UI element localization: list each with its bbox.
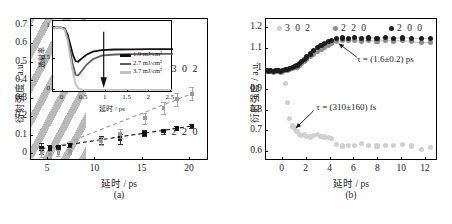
panel-b-xtick: 8 — [365, 164, 389, 174]
panel-a-xtick-mark — [94, 157, 95, 160]
inset-xtick-mark — [148, 90, 149, 93]
inset-legend-swatch — [120, 63, 131, 66]
inset-curves — [53, 21, 173, 93]
data-point-302 — [48, 153, 52, 157]
error-bar-cap — [39, 157, 44, 158]
error-bar-cap — [99, 145, 104, 146]
inset-xtick-mark — [170, 90, 171, 93]
data-point-302 — [162, 106, 166, 110]
error-bar-cap — [118, 129, 123, 130]
inset-xaxis-title: 延时 / ps — [82, 103, 142, 113]
inset-xtick-mark — [127, 90, 128, 93]
panel-b-label: (b) — [331, 190, 371, 200]
error-bar-cap — [161, 102, 166, 103]
inset-xtick: 2.5 — [160, 94, 180, 101]
data-point-200 — [359, 36, 364, 41]
inset-ytick-mark — [52, 58, 55, 59]
data-point-220 — [68, 143, 73, 148]
error-bar-cap — [118, 144, 123, 145]
data-point-302 — [346, 143, 351, 148]
inset-xtick-mark — [83, 90, 84, 93]
panel-b-legend-marker — [389, 26, 394, 31]
panel-b-ytick-mark — [265, 151, 268, 152]
panel-a-series-label: 3 0 2 — [171, 63, 199, 74]
data-point-302 — [190, 92, 194, 96]
data-point-302 — [118, 132, 122, 136]
panel-b-legend-label: 3 0 2 — [285, 23, 312, 33]
data-point-200 — [409, 36, 414, 41]
data-point-302 — [57, 151, 61, 155]
panel-a-ytick: 0.1 — [2, 130, 27, 140]
error-bar-cap — [142, 113, 147, 114]
panel-a-ytick-mark — [30, 98, 33, 99]
panel-a-xaxis-title: 延时 / ps — [79, 176, 159, 190]
error-bar-cap — [67, 154, 72, 155]
inset-legend-label: 2.7 mJ/cm² — [133, 59, 162, 66]
data-point-200 — [346, 36, 351, 41]
data-point-302 — [68, 150, 72, 154]
panel-a-ytick-mark — [30, 116, 33, 117]
panel-a-ytick-mark — [30, 80, 33, 81]
data-point-302 — [366, 143, 371, 148]
panel-b-legend-marker — [333, 26, 338, 31]
panel-a-ytick-mark — [30, 43, 33, 44]
panel-a-ytick: 0.7 — [2, 20, 27, 30]
inset-xtick: 0 — [52, 94, 72, 101]
inset-xtick-mark — [62, 90, 63, 93]
error-bar-cap — [142, 136, 147, 137]
panel-b-yaxis-title: 衍射强度 / a.u. — [247, 62, 261, 123]
panel-b-ytick-mark — [265, 48, 268, 49]
panel-b-xtick-mark — [282, 157, 283, 160]
data-point-302 — [40, 151, 44, 155]
figure-container: 00.10.20.30.40.50.60.75101520延时 / ps衍射强度… — [0, 0, 452, 224]
data-point-302 — [374, 143, 379, 148]
data-point-220 — [161, 129, 166, 134]
panel-b-xtick: 6 — [341, 164, 365, 174]
panel-a-xtick: 10 — [82, 164, 106, 174]
panel-a-xtick: 15 — [130, 164, 154, 174]
panel-b-xtick-mark — [306, 157, 307, 160]
inset-legend-label: 1.9 mJ/cm² — [133, 50, 162, 57]
error-bar-cap — [67, 147, 72, 148]
data-point-302 — [383, 143, 388, 148]
inset-xtick: 0.5 — [73, 94, 93, 101]
inset-legend-label: 3.7 mJ/cm² — [133, 67, 162, 74]
error-bar-cap — [161, 114, 166, 115]
inset-ytick-mark — [52, 26, 55, 27]
error-bar-cap — [47, 158, 52, 159]
error-bar-cap — [161, 134, 166, 135]
panel-a-ytick-mark — [30, 62, 33, 63]
panel-b-xtick: 2 — [294, 164, 318, 174]
panel-a-yaxis-title: 衍射强度 / a.u. — [12, 62, 26, 123]
data-point-302 — [340, 143, 345, 148]
inset-xtick: 1 — [95, 94, 115, 101]
panel-b-ytick: 1.2 — [237, 22, 262, 32]
panel-b-xtick-mark — [377, 157, 378, 160]
panel-a-series-label: 2 2 0 — [171, 126, 199, 137]
panel-b-ytick-mark — [265, 110, 268, 111]
panel-b-legend-label: 2 2 0 — [341, 23, 368, 33]
data-point-200 — [374, 36, 379, 41]
inset-xtick-mark — [105, 90, 106, 93]
inset-ytick-mark — [52, 89, 55, 90]
panel-b-xaxis-title: 延时 / ps — [311, 176, 391, 190]
panel-b-annotation-tau1: τ = (1.6±0.2) ps — [357, 54, 414, 64]
inset-yaxis-title: 透射率 — [36, 47, 46, 68]
data-point-200 — [419, 36, 424, 41]
inset-xtick: 1.5 — [117, 94, 137, 101]
error-bar-cap — [118, 138, 123, 139]
panel-b-legend-marker — [277, 26, 282, 31]
data-point-200 — [400, 35, 405, 40]
panel-b-xtick-mark — [330, 157, 331, 160]
inset-downward-arrow — [100, 32, 106, 88]
error-bar-cap — [56, 156, 61, 157]
data-point-220 — [56, 145, 61, 150]
panel-b-ytick: 1.1 — [237, 43, 262, 53]
error-bar-cap — [189, 100, 194, 101]
error-bar-cap — [142, 124, 147, 125]
panel-b-xtick-mark — [401, 157, 402, 160]
panel-a-xtick-mark — [142, 157, 143, 160]
panel-b-xtick: 12 — [413, 164, 437, 174]
error-bar-cap — [174, 106, 179, 107]
panel-b-xtick: 0 — [270, 164, 294, 174]
